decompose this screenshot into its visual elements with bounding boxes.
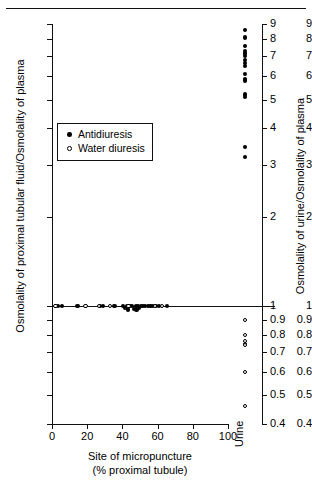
y-axis-left-title: Osmolality of proximal tubular fluid/Osm… <box>14 46 26 346</box>
legend-item-antidiuresis: Antidiuresis <box>64 128 145 141</box>
data-point-water-diuresis <box>108 304 112 308</box>
filled-circle-icon <box>64 132 75 137</box>
y-tick-label-right: 9 <box>270 18 300 29</box>
data-point-antidiuresis <box>243 72 247 76</box>
data-point-antidiuresis <box>75 304 79 308</box>
y-axis-right-title: Osmolality of urine/Osmolality of plasma <box>294 46 306 346</box>
data-point-antidiuresis <box>243 78 247 82</box>
y-tick-right <box>262 165 267 166</box>
legend-item-water-diuresis: Water diuresis <box>64 142 145 155</box>
y-tick-left <box>47 39 52 40</box>
x-tick <box>87 424 88 429</box>
data-point-antidiuresis <box>243 28 247 32</box>
y-tick-label-right: 0.6 <box>270 366 300 377</box>
y-tick-left <box>47 320 52 321</box>
y-tick-right <box>262 100 267 101</box>
data-point-antidiuresis <box>243 64 247 68</box>
y-tick-right <box>262 217 267 218</box>
open-circle-icon <box>64 146 75 151</box>
y-tick-left <box>47 165 52 166</box>
x-tick <box>52 424 53 429</box>
data-point-water-diuresis <box>83 304 87 308</box>
data-point-antidiuresis <box>243 155 247 159</box>
data-point-antidiuresis <box>165 304 169 308</box>
data-point-water-diuresis <box>53 304 57 308</box>
data-point-antidiuresis <box>243 145 247 149</box>
y-axis-left <box>52 24 53 424</box>
y-tick-right <box>262 76 267 77</box>
data-point-antidiuresis <box>126 307 130 311</box>
y-tick-label-right: 0.7 <box>270 346 300 357</box>
y-tick-left <box>47 335 52 336</box>
x-tick <box>193 424 194 429</box>
y-tick-left <box>47 76 52 77</box>
y-tick-label-right: 0.4 <box>270 418 300 429</box>
y-tick-right <box>262 56 267 57</box>
x-axis-title-line2: (% proximal tubule) <box>40 463 240 477</box>
y-tick-right <box>262 335 267 336</box>
y-tick-left <box>47 352 52 353</box>
data-point-antidiuresis <box>243 95 247 99</box>
y-tick-label-right: 8 <box>270 33 300 44</box>
y-tick-left <box>47 100 52 101</box>
y-tick-right <box>262 320 267 321</box>
y-tick-right <box>262 372 267 373</box>
y-tick-left <box>47 395 52 396</box>
data-point-antidiuresis <box>60 304 64 308</box>
x-axis-title: Site of micropuncture (% proximal tubule… <box>40 449 240 477</box>
y-tick-left <box>47 128 52 129</box>
x-tick-label: 80 <box>173 431 213 442</box>
x-tick-label: 0 <box>32 431 72 442</box>
x-axis <box>52 424 228 425</box>
y-tick-label-right: 0.5 <box>270 389 300 400</box>
data-point-water-diuresis <box>243 318 247 322</box>
y-tick-right <box>262 352 267 353</box>
y-tick-left <box>47 217 52 218</box>
figure-panel: 0.40.50.60.70.80.9123456789 0.40.50.60.7… <box>0 0 312 501</box>
y-tick-left <box>47 372 52 373</box>
y-tick-left <box>47 56 52 57</box>
y-tick-right <box>262 128 267 129</box>
y-tick-right <box>262 395 267 396</box>
data-point-water-diuresis <box>243 370 247 374</box>
y-tick-right <box>262 39 267 40</box>
x-tick-label: 40 <box>102 431 142 442</box>
data-point-water-diuresis <box>243 333 247 337</box>
legend: Antidiuresis Water diuresis <box>57 123 153 161</box>
data-point-antidiuresis <box>101 304 105 308</box>
y-tick-right <box>262 424 267 425</box>
legend-label-antidiuresis: Antidiuresis <box>78 128 132 141</box>
top-rule <box>6 8 306 9</box>
data-point-antidiuresis <box>243 35 247 39</box>
x-tick-label: 60 <box>138 431 178 442</box>
urine-panel-label: Urine <box>233 387 245 447</box>
y-tick-right <box>262 24 267 25</box>
y-tick-left <box>47 24 52 25</box>
y-axis-right-urine <box>262 24 263 424</box>
x-tick <box>158 424 159 429</box>
data-point-antidiuresis <box>112 304 116 308</box>
data-point-water-diuresis <box>160 304 164 308</box>
x-tick <box>122 424 123 429</box>
x-tick-label: 20 <box>67 431 107 442</box>
data-point-antidiuresis <box>243 44 247 48</box>
x-tick <box>228 424 229 429</box>
legend-label-water-diuresis: Water diuresis <box>78 142 145 155</box>
x-axis-title-line1: Site of micropuncture <box>40 449 240 463</box>
data-point-water-diuresis <box>243 343 247 347</box>
